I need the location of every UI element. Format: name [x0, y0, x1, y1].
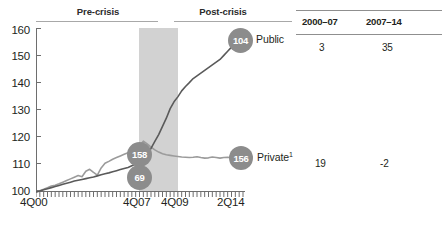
table-clipped-title	[296, 2, 442, 8]
period-rule-post-crisis	[174, 21, 292, 22]
period-label-pre-crisis: Pre-crisis	[38, 6, 158, 17]
table-cell-public-2000-07: 3	[319, 42, 324, 53]
y-tick-120: 120	[0, 131, 30, 143]
value-bubble-104: 104	[228, 28, 253, 53]
y-tick-130: 130	[0, 104, 30, 116]
table-cell-private-2007-14: -2	[380, 158, 389, 169]
series-label-private-footnote: 1	[289, 151, 293, 158]
series-label-public: Public	[256, 33, 284, 45]
table-top-rule	[296, 10, 442, 11]
series-label-private-text: Private	[257, 151, 289, 163]
table-header-rule	[296, 34, 442, 35]
x-axis-ticks	[36, 191, 243, 197]
table-cell-private-2000-07: 19	[315, 158, 326, 169]
value-bubble-69: 69	[127, 165, 152, 190]
value-bubble-158: 158	[127, 142, 152, 167]
y-tick-150: 150	[0, 50, 30, 62]
y-tick-160: 160	[0, 24, 30, 36]
period-rule-pre-crisis	[36, 21, 158, 22]
table-header-2000-07: 2000–07	[302, 16, 338, 27]
period-label-post-crisis: Post-crisis	[168, 6, 278, 17]
chart-figure: Pre-crisis Post-crisis 160 150 140 130 1…	[0, 0, 448, 226]
value-bubble-156: 156	[229, 146, 253, 170]
table-header-2007-14: 2007–14	[366, 16, 402, 27]
series-label-private: Private1	[257, 151, 293, 163]
y-tick-140: 140	[0, 77, 30, 89]
y-tick-110: 110	[0, 158, 30, 170]
table-cell-public-2007-14: 35	[382, 42, 393, 53]
